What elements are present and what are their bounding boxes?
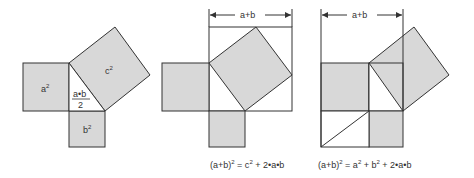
figure-3-a-b-squared-proof bbox=[321, 9, 449, 147]
triangle-area-denominator: 2 bbox=[78, 100, 83, 110]
dimension-label: a+b bbox=[352, 10, 367, 20]
pythagorean-proof-diagram: a2 c2 b2 a•b 2 a+b (a+b)2 = c2 + 2•a•b a… bbox=[0, 0, 474, 178]
dimension-label: a+b bbox=[240, 10, 255, 20]
square-a bbox=[162, 63, 209, 111]
square-b bbox=[369, 111, 403, 147]
square-b bbox=[209, 111, 245, 147]
figure-2-c-squared-proof bbox=[162, 9, 292, 147]
triangle-area-numerator: a•b bbox=[73, 89, 86, 99]
square-a bbox=[321, 63, 369, 111]
equation-a-b-squared: (a+b)2 = a2 + b2 + 2•a•b bbox=[318, 159, 411, 170]
equation-c-squared: (a+b)2 = c2 + 2•a•b bbox=[210, 159, 284, 170]
